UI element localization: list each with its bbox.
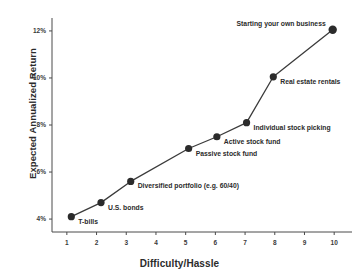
y-tick-label: 10% [18, 74, 46, 81]
data-point-label: Individual stock picking [254, 124, 331, 131]
x-tick-label: 2 [82, 239, 112, 246]
x-tick-label: 3 [111, 239, 141, 246]
y-tick-label: 8% [18, 121, 46, 128]
data-point-marker [243, 119, 250, 126]
chart-container: Expected Annualized Return Difficulty/Ha… [0, 0, 359, 280]
data-point-label: T-bills [78, 218, 98, 225]
chart-plot-area [0, 0, 359, 280]
y-tick-label: 6% [18, 168, 46, 175]
data-point-marker [127, 178, 134, 185]
y-tick-label: 4% [18, 215, 46, 222]
x-tick-label: 4 [141, 239, 171, 246]
x-tick-label: 9 [289, 239, 319, 246]
data-point-label: Starting your own business [237, 20, 326, 27]
data-point-marker [328, 26, 336, 34]
data-point-label: Passive stock fund [196, 150, 258, 157]
data-point-marker [97, 199, 104, 206]
data-point-marker [68, 213, 75, 220]
data-point-label: Real estate rentals [280, 78, 340, 85]
x-tick-label: 8 [260, 239, 290, 246]
data-point-label: U.S. bonds [108, 204, 144, 211]
y-axis-title: Expected Annualized Return [27, 24, 38, 204]
x-tick-label: 6 [200, 239, 230, 246]
data-point-marker [185, 145, 192, 152]
y-tick-label: 12% [18, 27, 46, 34]
data-point-label: Active stock fund [224, 138, 281, 145]
data-point-marker [270, 73, 277, 80]
x-tick-label: 7 [230, 239, 260, 246]
x-tick-label: 10 [319, 239, 349, 246]
data-point-label: Diversified portfolio (e.g. 60/40) [138, 182, 239, 189]
x-axis-title: Difficulty/Hassle [0, 258, 359, 269]
data-point-marker [213, 133, 220, 140]
x-tick-label: 5 [171, 239, 201, 246]
x-tick-label: 1 [52, 239, 82, 246]
